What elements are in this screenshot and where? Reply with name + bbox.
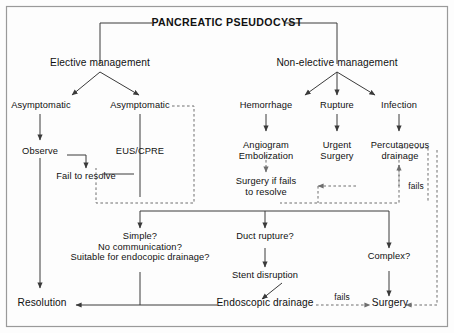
- node-endoscopic-drainage: Endoscopic drainage: [216, 298, 313, 309]
- node-non-elective-management: Non-elective management: [276, 58, 397, 69]
- node-angiogram-embolization: Angiogram Embolization: [239, 140, 293, 161]
- node-elective-management: Elective management: [50, 58, 150, 69]
- node-asymptomatic-left: Asymptomatic: [11, 100, 71, 111]
- percutaneous-line1: Percutaneous: [371, 140, 430, 150]
- percutaneous-line2: drainage: [382, 151, 419, 161]
- simple-line2: No communication?: [98, 242, 182, 252]
- node-percutaneous-drainage: Percutaneous drainage: [371, 140, 430, 161]
- angiogram-line2: Embolization: [239, 151, 293, 161]
- urgent-line2: Surgery: [320, 151, 353, 161]
- surgery-if-fails-line1: Surgery if fails: [236, 176, 297, 186]
- edge-label-fails-bottom: fails: [334, 292, 349, 303]
- node-asymptomatic-right: Asymptomatic: [110, 100, 170, 111]
- flowchart-diagram: PANCREATIC PSEUDOCYST Elective managemen…: [0, 0, 454, 333]
- node-eus-cpre: EUS/CPRE: [116, 146, 164, 157]
- node-duct-rupture: Duct rupture?: [236, 231, 294, 242]
- node-stent-disruption: Stent disruption: [232, 270, 298, 281]
- outer-border: [7, 7, 448, 327]
- node-hemorrhage: Hemorrhage: [240, 100, 293, 111]
- node-resolution: Resolution: [17, 298, 66, 309]
- node-surgery: Surgery: [372, 298, 408, 309]
- node-complex: Complex?: [368, 251, 411, 262]
- flowchart-connectors: [0, 0, 454, 333]
- node-observe: Observe: [22, 146, 58, 157]
- node-urgent-surgery: Urgent Surgery: [320, 140, 353, 161]
- node-surgery-if-fails: Surgery if fails to resolve: [236, 176, 297, 197]
- simple-line3: Suitable for endocopic drainage?: [70, 252, 209, 262]
- node-fail-to-resolve: Fail to resolve: [56, 171, 115, 182]
- node-infection: Infection: [381, 100, 417, 111]
- angiogram-line1: Angiogram: [243, 140, 289, 150]
- urgent-line1: Urgent: [323, 140, 352, 150]
- simple-line1: Simple?: [123, 231, 157, 241]
- node-simple-criteria: Simple? No communication? Suitable for e…: [70, 231, 209, 263]
- diagram-title: PANCREATIC PSEUDOCYST: [151, 17, 302, 28]
- surgery-if-fails-line2: to resolve: [245, 187, 286, 197]
- edge-label-fails-right: fails: [408, 181, 423, 192]
- node-rupture: Rupture: [320, 100, 354, 111]
